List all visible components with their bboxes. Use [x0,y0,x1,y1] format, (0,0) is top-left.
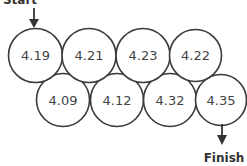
finish-arrow-icon [217,124,227,145]
finish-label: Finish [204,151,245,165]
circle-node: 4.21 [62,29,116,83]
node-value: 4.12 [103,93,132,108]
node-value: 4.35 [207,93,236,108]
start-label: Start [3,0,37,7]
circle-node: 4.19 [9,29,63,83]
start-arrow-icon [29,8,39,28]
node-value: 4.32 [156,93,185,108]
node-value: 4.19 [21,48,50,63]
circle-path-diagram: Start 4.09 4.12 4.32 4.35 4.19 [0,0,247,166]
circle-node: 4.22 [170,30,222,82]
node-value: 4.21 [75,48,104,63]
node-value: 4.23 [129,48,158,63]
node-value: 4.09 [49,93,78,108]
circle-node: 4.35 [196,75,247,126]
node-value: 4.22 [181,48,210,63]
circle-node: 4.23 [116,29,170,83]
